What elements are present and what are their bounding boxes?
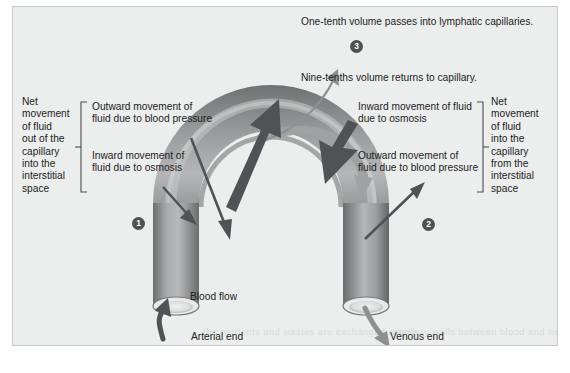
arterial-end-label: Arterial end (191, 331, 243, 343)
diagram-graphics (13, 7, 558, 346)
left-inward-label: Inward movement of fluid due to osmosis (92, 150, 242, 175)
step-marker-3: 3 (350, 40, 363, 53)
right-net-movement-label: Net movement of fluid into the capillary… (491, 96, 555, 195)
lymphatic-label: One-tenth volume passes into lymphatic c… (301, 16, 558, 28)
left-outward-label: Outward movement of fluid due to blood p… (92, 101, 242, 126)
return-to-capillary-label: Nine-tenths volume returns to capillary. (301, 72, 551, 84)
left-net-movement-label: Net movement of fluid out of the capilla… (22, 96, 84, 195)
step-marker-2: 2 (422, 218, 435, 231)
capillary-exchange-figure: the nutrients and wastes are exchanged a… (12, 6, 558, 346)
step-marker-1: 1 (132, 217, 145, 230)
blood-flow-label: Blood flow (190, 291, 237, 303)
venous-end-label: Venous end (390, 331, 444, 343)
